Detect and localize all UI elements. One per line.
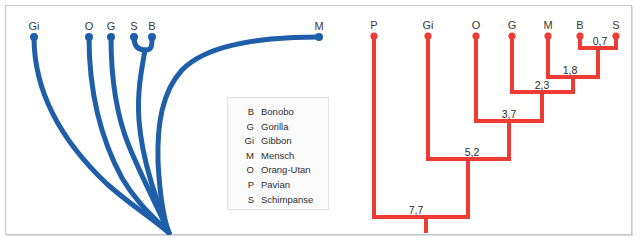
legend-abbr-p: P	[228, 178, 261, 193]
legend-item-m: M Mensch	[228, 149, 328, 164]
left-tip-label-gi: Gi	[29, 20, 40, 32]
node-label-5-2: 5,2	[465, 146, 480, 158]
right-tip-label-b: B	[576, 19, 583, 31]
left-tip-dot-g	[107, 33, 115, 41]
legend-abbr-m: M	[228, 149, 261, 164]
legend-item-p: P Pavian	[228, 178, 328, 193]
node-label-0-7: 0,7	[593, 35, 608, 47]
right-tip-dots	[370, 32, 619, 39]
right-clade-pavian-catarrhini	[374, 36, 468, 217]
right-tip-dot-gi	[424, 32, 431, 39]
legend-name-gi: Gibbon	[261, 134, 328, 149]
legend-name-b: Bonobo	[261, 105, 328, 120]
right-tip-dot-b	[576, 32, 583, 39]
right-tip-dot-m	[544, 32, 551, 39]
legend-item-s: S Schimpanse	[228, 193, 328, 208]
species-legend: B Bonobo G Gorilla Gi Gibbon M Mensch O …	[227, 97, 329, 210]
left-tip-label-s: S	[130, 20, 137, 32]
right-tip-label-p: P	[370, 19, 377, 31]
figure-canvas: Gi O G S B M	[0, 0, 640, 245]
right-tip-dot-p	[370, 32, 377, 39]
legend-name-g: Gorilla	[261, 120, 328, 135]
left-tip-label-m: M	[314, 20, 323, 32]
right-clade-gibbon-hominoidea	[428, 36, 509, 159]
legend-abbr-b: B	[228, 105, 261, 120]
right-tip-label-gi: Gi	[423, 19, 434, 31]
left-tip-dot-b	[148, 33, 156, 41]
legend-item-o: O Orang-Utan	[228, 163, 328, 178]
right-tip-dot-s	[612, 32, 619, 39]
legend-name-s: Schimpanse	[261, 193, 328, 208]
left-tip-dot-m	[315, 33, 323, 41]
figure-frame: Gi O G S B M	[5, 5, 632, 235]
legend-abbr-s: S	[228, 193, 261, 208]
left-tip-dot-s	[130, 33, 138, 41]
right-tip-label-g: G	[508, 19, 517, 31]
right-tip-labels: P Gi O G M B S	[370, 19, 619, 31]
legend-name-p: Pavian	[261, 178, 328, 193]
right-tip-label-s: S	[612, 19, 619, 31]
left-tip-label-b: B	[148, 20, 155, 32]
legend-abbr-o: O	[228, 163, 261, 178]
node-label-2-3: 2,3	[535, 79, 550, 91]
left-tip-dot-gi	[30, 33, 38, 41]
legend-item-gi: Gi Gibbon	[228, 134, 328, 149]
legend-name-o: Orang-Utan	[261, 163, 328, 178]
node-label-3-7: 3,7	[502, 108, 517, 120]
legend-item-b: B Bonobo	[228, 105, 328, 120]
right-cladogram: P Gi O G M B S	[346, 12, 638, 241]
right-tip-dot-g	[508, 32, 515, 39]
right-tip-label-o: O	[472, 19, 481, 31]
node-label-1-8: 1,8	[563, 64, 578, 76]
legend-item-g: G Gorilla	[228, 120, 328, 135]
left-tip-dot-o	[85, 33, 93, 41]
node-label-7-7: 7,7	[409, 204, 424, 216]
right-tip-dot-o	[472, 32, 479, 39]
left-tip-labels: Gi O G S B M	[29, 20, 324, 32]
right-tip-label-m: M	[543, 19, 552, 31]
left-tip-label-g: G	[107, 20, 116, 32]
legend-name-m: Mensch	[261, 149, 328, 164]
left-tip-label-o: O	[85, 20, 94, 32]
legend-abbr-g: G	[228, 120, 261, 135]
legend-abbr-gi: Gi	[228, 134, 261, 149]
